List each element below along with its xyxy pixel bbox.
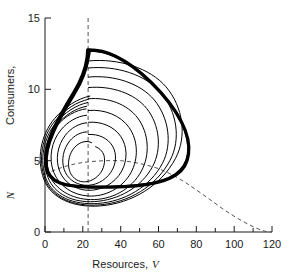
y-axis-title-text: Consumers, [4,66,16,125]
x-tick-label-80: 80 [190,238,202,250]
x-tick-label-0: 0 [42,238,48,250]
y-axis-title-symbol: N [4,191,16,200]
y-tick-label-5: 5 [34,155,40,167]
phase-portrait-chart: 15 10 5 0 0 20 40 60 [0,0,294,278]
y-tick-label-10: 10 [28,83,40,95]
y-tick-label-15: 15 [28,12,40,24]
x-tick-label-100: 100 [225,238,243,250]
y-tick-label-0: 0 [34,226,40,238]
x-axis-title-text: Resources, [92,258,148,270]
x-tick-label-120: 120 [263,238,281,250]
phase-portrait-figure: 15 10 5 0 0 20 40 60 [0,0,294,278]
x-tick-label-40: 40 [115,238,127,250]
x-tick-label-20: 20 [77,238,89,250]
x-tick-label-60: 60 [152,238,164,250]
